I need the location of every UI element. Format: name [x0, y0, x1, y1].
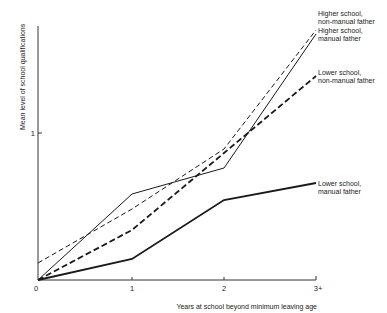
series-higher-manual: [38, 34, 316, 280]
series-lower-nonmanual: [38, 76, 316, 280]
label-lower-manual-1: Lower school,: [318, 180, 361, 187]
x-tick-label-1: 1: [130, 284, 134, 293]
label-higher-nonmanual-1: Higher school,: [318, 10, 363, 18]
x-axis-title: Years at school beyond minimum leaving a…: [176, 303, 317, 311]
y-tick-label-1: 1: [31, 129, 35, 138]
label-higher-manual-2: manual father: [318, 35, 361, 42]
x-tick-label-2: 2: [222, 284, 226, 293]
series-lower-manual: [38, 183, 316, 280]
label-higher-nonmanual-2: non-manual father: [318, 18, 375, 25]
label-lower-manual-2: manual father: [318, 188, 361, 195]
chart: 0 1 2 3+ 1 Years at school beyond minimu…: [0, 0, 387, 313]
y-axis-title: Mean level of school qualifications: [19, 23, 27, 130]
x-tick-label-3: 3+: [314, 284, 323, 293]
series-higher-nonmanual: [38, 30, 316, 263]
label-lower-nonmanual-2: non-manual father: [318, 77, 375, 84]
label-higher-manual-1: Higher school,: [318, 27, 363, 35]
x-tick-label-0: 0: [34, 284, 38, 293]
label-lower-nonmanual-1: Lower school,: [318, 69, 361, 76]
